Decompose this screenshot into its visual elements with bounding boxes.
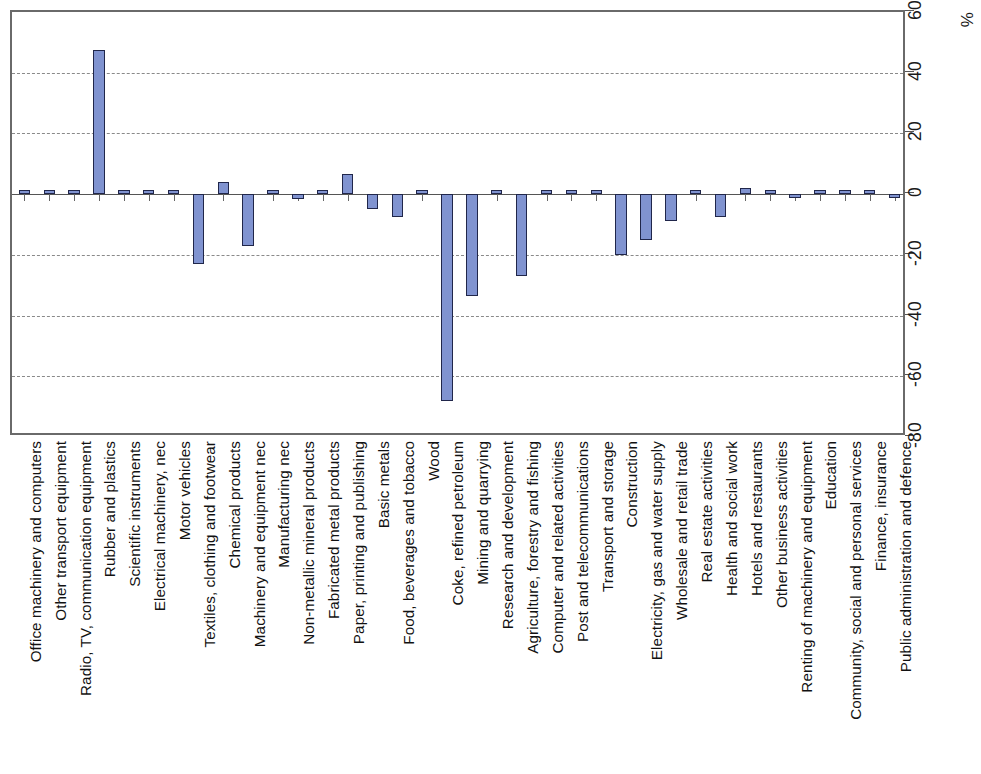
category-label: Manufacturing nec	[276, 441, 291, 568]
bar	[566, 190, 577, 194]
category-label: Community, social and personal services	[848, 441, 863, 720]
category-axis-labels: Office machinery and computersOther tran…	[10, 441, 905, 771]
category-label: Transport and storage	[600, 441, 615, 592]
category-label: Renting of machinery and equipment	[799, 441, 814, 693]
category-label: Other transport equipment	[53, 441, 68, 621]
bar	[367, 194, 378, 209]
y-axis-tick-label: 40	[905, 25, 926, 71]
x-axis-tick	[845, 194, 846, 201]
bar	[292, 194, 303, 199]
bar	[789, 194, 800, 198]
bar	[615, 194, 626, 255]
category-label: Rubber and plastics	[102, 441, 117, 577]
bar	[516, 194, 527, 276]
bar	[93, 50, 104, 194]
bar	[491, 190, 502, 194]
category-label: Non-metallic mineral products	[301, 441, 316, 645]
bar	[665, 194, 676, 221]
x-axis-tick	[223, 194, 224, 201]
bar	[218, 182, 229, 194]
category-label: Wood	[426, 441, 441, 481]
category-label: Food, beverages and tobacco	[401, 441, 416, 645]
category-label: Chemical products	[227, 441, 242, 568]
x-axis-tick	[49, 194, 50, 201]
plot-area	[10, 10, 905, 435]
category-label: Public administration and defence	[898, 441, 913, 672]
bar	[68, 190, 79, 194]
category-label: Wholesale and retail trade	[674, 441, 689, 620]
bar	[342, 174, 353, 194]
y-axis-tick-label: 20	[905, 85, 926, 131]
bar	[44, 190, 55, 194]
bar	[317, 190, 328, 194]
category-label: Office machinery and computers	[28, 441, 43, 662]
category-label: Real estate activities	[699, 441, 714, 582]
x-axis-tick	[24, 194, 25, 201]
category-label: Motor vehicles	[177, 441, 192, 540]
x-axis-tick	[124, 194, 125, 201]
x-axis-tick	[323, 194, 324, 201]
bar	[168, 190, 179, 194]
bar	[864, 190, 875, 194]
category-label: Machinery and equipment nec	[252, 441, 267, 647]
bar	[441, 194, 452, 400]
bar	[765, 190, 776, 194]
x-axis-tick	[497, 194, 498, 201]
x-axis-tick	[596, 194, 597, 201]
category-label: Post and telecommunications	[575, 441, 590, 642]
y-axis-tick-label: -40	[905, 268, 926, 314]
x-axis-tick	[745, 194, 746, 201]
bar	[466, 194, 477, 296]
category-label: Scientific instruments	[127, 441, 142, 587]
gridline	[12, 133, 903, 134]
category-label: Research and development	[500, 441, 515, 629]
bar	[690, 190, 701, 194]
category-label: Paper, printing and publishing	[351, 441, 366, 644]
y-axis-tick-label: 0	[905, 146, 926, 192]
gridline	[12, 73, 903, 74]
y-axis-unit-label: %	[958, 12, 978, 27]
x-axis-tick	[74, 194, 75, 201]
category-label: Construction	[624, 441, 639, 527]
bar	[889, 194, 900, 198]
category-label: Textiles, clothing and footwear	[202, 441, 217, 648]
gridline	[12, 316, 903, 317]
category-label: Agriculture, forestry and fishing	[525, 441, 540, 654]
bar	[814, 190, 825, 194]
bar	[242, 194, 253, 246]
y-axis: 6040200-20-40-60-80	[905, 0, 957, 445]
y-axis-tick-label: 60	[905, 0, 926, 10]
x-axis-tick	[273, 194, 274, 201]
x-axis-tick	[820, 194, 821, 201]
category-label: Finance, insurance	[873, 441, 888, 571]
category-label: Hotels and restaurants	[749, 441, 764, 596]
category-label: Coke, refined petroleum	[450, 441, 465, 605]
category-label: Fabricated metal products	[326, 441, 341, 619]
x-axis-tick	[422, 194, 423, 201]
bar	[740, 188, 751, 194]
x-axis-tick	[696, 194, 697, 201]
category-label: Mining and quarrying	[475, 441, 490, 585]
category-label: Health and social work	[724, 441, 739, 596]
bar	[267, 190, 278, 194]
bar	[839, 190, 850, 194]
category-label: Other business activities	[774, 441, 789, 608]
bar	[640, 194, 651, 240]
category-label: Computer and related activities	[550, 441, 565, 653]
x-axis-tick	[174, 194, 175, 201]
category-label: Electrical machinery, nec	[152, 441, 167, 611]
category-label: Electricity, gas and water supply	[649, 441, 664, 660]
bar	[118, 190, 129, 194]
gridline	[12, 255, 903, 256]
category-label: Basic metals	[376, 441, 391, 528]
bar	[591, 190, 602, 194]
x-axis-tick	[571, 194, 572, 201]
x-axis-tick	[547, 194, 548, 201]
x-axis-tick	[149, 194, 150, 201]
bar	[19, 190, 30, 194]
bar	[715, 194, 726, 217]
bar	[143, 190, 154, 194]
bar	[193, 194, 204, 264]
x-axis-tick	[348, 194, 349, 201]
y-axis-tick-label: -60	[905, 328, 926, 374]
